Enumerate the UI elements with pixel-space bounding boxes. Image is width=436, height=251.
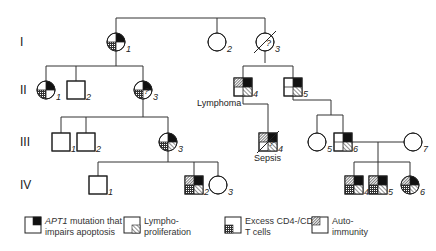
clinical-note: Lymphoma [197,98,241,108]
legend-item-autoimmunity: Auto-immunity [312,216,369,237]
individual-number: 7 [423,144,429,154]
individuals: 12?312?34Lymphoma5123?4Sepsis567123456 [37,31,429,197]
legend-item-apt1: APT1 mutation thatimpairs apoptosis [25,216,123,237]
legend-text-line1: APT1 mutation that [44,216,123,226]
individual-number: 2 [226,44,232,54]
individual-iii-7: 7 [404,133,429,154]
question-mark: ? [269,138,274,148]
legend-text-line1: Lympho- [144,216,179,226]
individual-i-1: 1 [107,33,131,54]
generation-label: II [20,83,27,97]
autoimmunity-quadrant [369,176,378,185]
individual-number: 1 [56,92,61,102]
individual-ii-1: 1 [37,81,61,102]
individual-number: 5 [303,89,309,99]
apt1-quadrant [378,176,387,185]
individual-number: 6 [420,187,425,197]
legend-item-cd4cd8: Excess CD4-/CD8-T cells [225,216,321,237]
legend-text-line2: T cells [245,227,271,237]
lympho-quadrant [194,185,203,194]
apt1-quadrant [293,78,302,87]
lympho-quadrant [293,87,302,96]
individual-i-2: 2 [208,33,232,54]
male-symbol [89,176,107,194]
pedigree-chart: IIIIIIIV 12?312?34Lymphoma5123?4Sepsis56… [0,0,436,251]
individual-iv-3: 3 [209,176,233,197]
individual-iii-2: 2 [77,133,101,154]
male-symbol [77,133,95,151]
individual-iii-6: 6 [334,133,358,154]
individual-number: 1 [71,144,76,154]
individual-number: 3 [275,44,280,54]
individual-number: 2 [85,92,91,102]
question-mark: ? [266,38,271,48]
lympho-quadrant [243,87,252,96]
generation-label: III [20,135,30,149]
autoimmunity-quadrant [234,78,243,87]
individual-number: 5 [388,187,394,197]
legend-key-quadrant [33,217,41,225]
legend-text-line2: immunity [332,227,369,237]
legend-text-line1: Excess CD4-/CD8- [245,216,321,226]
lympho-quadrant [343,142,352,151]
individual-i-3: ?3 [254,31,280,54]
apt1-quadrant [243,78,252,87]
generation-labels: IIIIIIIV [20,35,31,192]
clinical-note: Sepsis [254,153,282,163]
individual-number: 4 [364,187,369,197]
apt1-quadrant [194,176,203,185]
male-symbol [52,133,70,151]
individual-number: 6 [353,144,358,154]
individual-ii-2: 2 [67,81,91,102]
individual-iii-4: ?4Sepsis [254,131,283,163]
generation-label: IV [20,178,31,192]
legend-text-line1: Auto- [332,216,354,226]
individual-iii-5: 5 [308,133,333,154]
generation-label: I [20,35,23,49]
individual-number: 5 [327,144,333,154]
individual-number: 3 [178,144,183,154]
lympho-quadrant [354,185,363,194]
legend-text-line2: impairs apoptosis [45,227,116,237]
apt1-quadrant [343,133,352,142]
individual-iii-3: 3 [159,133,183,154]
apt1-quadrant [354,176,363,185]
legend-item-lympho: Lympho-proliferation [124,216,191,237]
individual-iv-6: 6 [401,176,425,197]
cd4cd8-quadrant [185,185,194,194]
autoimmunity-quadrant [185,176,194,185]
individual-iv-5: 5 [369,176,394,197]
legend-key-quadrant [312,217,320,225]
individual-iv-1: 1 [89,176,113,197]
cd4cd8-quadrant [345,185,354,194]
male-symbol [67,81,85,99]
legend-key-quadrant [225,225,233,233]
legend: APT1 mutation thatimpairs apoptosisLymph… [25,216,369,237]
individual-iv-4: 4 [345,176,369,197]
individual-ii-3: ?3 [134,81,158,102]
individual-number: 2 [203,187,209,197]
autoimmunity-quadrant [259,133,268,142]
individual-number: 2 [95,144,101,154]
individual-iv-2: 2 [185,176,209,197]
individual-number: 1 [108,187,113,197]
cd4cd8-quadrant [369,185,378,194]
legend-key-quadrant [132,225,140,233]
lympho-quadrant [378,185,387,194]
individual-iii-1: 1 [52,133,76,154]
individual-number: 1 [126,44,131,54]
autoimmunity-quadrant [345,176,354,185]
individual-number: 3 [153,92,158,102]
question-mark: ? [144,86,149,96]
legend-text-line2: proliferation [144,227,191,237]
individual-ii-5: 5 [284,78,309,99]
individual-number: 3 [228,187,233,197]
individual-number: 4 [253,89,258,99]
